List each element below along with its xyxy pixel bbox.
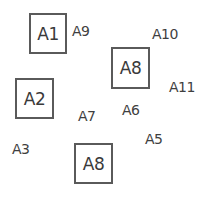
label-a6: A6 [122, 102, 139, 118]
label-a7: A7 [78, 108, 95, 124]
label-a10: A10 [152, 26, 178, 42]
box-a1: A1 [29, 13, 67, 54]
box-label: A8 [83, 154, 104, 174]
box-label: A2 [24, 89, 45, 109]
box-a8-bottom: A8 [74, 143, 113, 184]
box-label: A1 [37, 24, 58, 44]
label-a11: A11 [169, 79, 195, 95]
label-a5: A5 [145, 131, 162, 147]
box-label: A8 [120, 58, 141, 78]
label-a9: A9 [72, 23, 89, 39]
box-a8-top: A8 [111, 47, 150, 89]
label-a3: A3 [12, 141, 29, 157]
box-a2: A2 [15, 78, 54, 119]
